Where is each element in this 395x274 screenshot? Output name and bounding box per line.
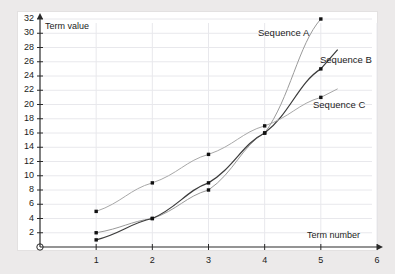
y-tick-label: 22	[6, 85, 34, 94]
y-tick-label: 16	[6, 128, 34, 137]
data-point	[207, 181, 210, 184]
y-tick-label: 14	[6, 142, 34, 151]
data-point	[207, 188, 210, 191]
series-line-sequence-c	[96, 89, 338, 212]
y-tick-label: 20	[6, 100, 34, 109]
y-tick-label: 12	[6, 157, 34, 166]
data-point	[263, 131, 266, 134]
x-tick-label: 2	[138, 256, 166, 265]
data-point	[94, 210, 97, 213]
y-tick-label: 18	[6, 114, 34, 123]
x-tick-label: 5	[307, 256, 335, 265]
data-point	[94, 231, 97, 234]
data-point	[94, 238, 97, 241]
y-tick-label: 30	[6, 28, 34, 37]
y-tick-label: 32	[6, 14, 34, 23]
y-axis-title: Term value	[45, 22, 89, 31]
chart-screenshot: Term value Term number Sequence A Sequen…	[0, 0, 395, 274]
data-point	[319, 17, 322, 20]
y-tick-label: 4	[6, 214, 34, 223]
series-lines	[96, 19, 338, 240]
series-line-sequence-b	[96, 50, 338, 240]
x-tick-label: 1	[82, 256, 110, 265]
y-tick-label: 28	[6, 43, 34, 52]
x-tick-label: 4	[251, 256, 279, 265]
y-tick-label: 24	[6, 71, 34, 80]
data-point	[263, 124, 266, 127]
x-tick-label: 6	[363, 256, 391, 265]
series-label-sequence-b: Sequence B	[320, 55, 372, 65]
axes	[37, 13, 383, 250]
data-point	[319, 67, 322, 70]
y-tick-label: 6	[6, 199, 34, 208]
y-tick-label: 26	[6, 57, 34, 66]
data-point	[151, 181, 154, 184]
data-point	[207, 153, 210, 156]
series-label-sequence-a: Sequence A	[258, 28, 309, 38]
data-point	[151, 217, 154, 220]
y-tick-label: 10	[6, 171, 34, 180]
y-tick-label: 8	[6, 185, 34, 194]
x-tick-label: 3	[195, 256, 223, 265]
y-tick-label: 2	[6, 228, 34, 237]
series-label-sequence-c: Sequence C	[313, 100, 365, 110]
x-axis-title: Term number	[307, 231, 360, 240]
